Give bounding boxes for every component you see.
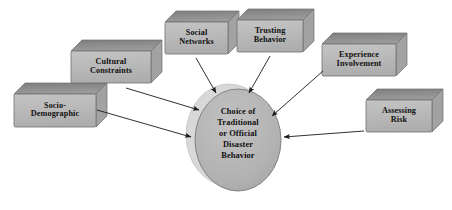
factor-box-socio-demographic[interactable]	[14, 83, 107, 127]
box-front-face	[322, 44, 396, 76]
factor-box-trusting-behavior[interactable]	[237, 9, 314, 52]
box-top-face	[71, 40, 162, 51]
factor-box-cultural-constraints[interactable]	[71, 40, 162, 83]
box-top-face	[165, 11, 239, 22]
arrow-social-networks-to-choice	[196, 58, 216, 93]
choice-node-ellipse[interactable]	[195, 89, 281, 191]
arrow-socio-demographic-to-choice	[97, 110, 191, 137]
box-front-face	[14, 94, 96, 127]
diagram-graphics	[0, 0, 452, 210]
box-front-face	[237, 20, 303, 52]
factor-box-social-networks[interactable]	[165, 11, 239, 54]
factor-box-experience-involvement[interactable]	[322, 33, 407, 76]
arrow-experience-involvement-to-choice	[272, 71, 323, 116]
box-top-face	[322, 33, 407, 44]
box-front-face	[366, 100, 432, 132]
box-front-face	[71, 51, 151, 83]
box-front-face	[165, 22, 228, 54]
box-top-face	[14, 83, 107, 94]
choice-node-shape	[186, 84, 281, 191]
arrow-assessing-risk-to-choice	[284, 131, 364, 137]
box-top-face	[366, 89, 443, 100]
box-top-face	[237, 9, 314, 20]
arrow-cultural-constraints-to-choice	[126, 88, 199, 110]
diagram-canvas: Choice of Traditional or Official Disast…	[0, 0, 452, 210]
factor-box-assessing-risk[interactable]	[366, 89, 443, 132]
arrow-trusting-behavior-to-choice	[249, 56, 270, 93]
